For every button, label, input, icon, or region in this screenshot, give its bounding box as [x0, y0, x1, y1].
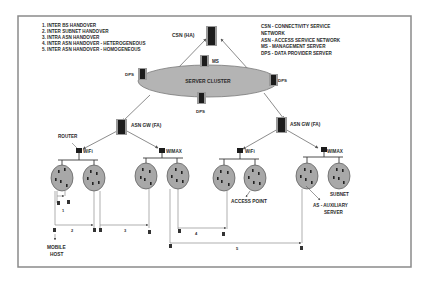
mobile-host-icon: [53, 228, 56, 232]
ms-label: MS: [212, 59, 219, 64]
legend-item-5: 5. INTER ASN HANDOVER - HOMOGENEOUS: [42, 47, 141, 52]
legend-item-2: 2. INTER SUBNET HANDOVER: [42, 29, 109, 34]
wimax-right-label: WIMAX: [327, 149, 344, 154]
mobile-host-label-2: HOST: [50, 252, 63, 257]
mobile-host-label-1: MOBILE: [47, 245, 66, 250]
subnet-cell: [135, 163, 157, 189]
dps-right-label: DPS: [278, 78, 287, 83]
csn-label: CSN (HA): [172, 32, 195, 38]
asn-gw-left: [116, 119, 127, 135]
asn-gw-right-label: ASN GW (FA): [290, 122, 321, 127]
ms-server: [200, 55, 209, 67]
dps-right-server: [269, 74, 278, 86]
mobile-host-icon: [99, 228, 102, 232]
mobile-host-icon: [169, 244, 172, 248]
router-label: ROUTER: [58, 134, 78, 139]
dps-left-server: [138, 68, 147, 80]
wifi-left-router: [76, 148, 82, 153]
wimax-left-label: WIMAX: [166, 149, 183, 154]
mobile-host-icon: [67, 200, 70, 204]
csn-server: [206, 26, 217, 46]
dps-bottom-server: [197, 92, 206, 104]
abbrev-csn-cont: NETWORK: [261, 31, 285, 36]
wifi-left-label: WiFi: [83, 149, 93, 154]
subnet-cell: [167, 163, 189, 189]
auxiliary-server-label-1: AS - AUXILIARY: [313, 203, 348, 208]
abbrev-csn: CSN - CONNECTIVITY SERVICE: [261, 24, 330, 29]
wimax-handover-diagram: 1. INTER BS HANDOVER 2. INTER SUBNET HAN…: [0, 0, 430, 281]
auxiliary-server-label-2: SERVER: [324, 210, 343, 215]
access-point-label: ACCESS POINT: [231, 199, 267, 204]
asn-gw-left-label: ASN GW (FA): [131, 123, 162, 128]
subnet-cell: [83, 165, 105, 191]
subnet-label: SUBNET: [330, 192, 349, 197]
legend-item-4: 4. INTER ASN HANDOVER - HETEROGENEOUS: [42, 41, 145, 46]
abbrev-dps: DPS - DATA PROVIDER SERVER: [261, 51, 332, 56]
subnet-cell: [328, 163, 350, 189]
mobile-host-icon: [300, 246, 303, 250]
subnet-cell: [296, 163, 318, 189]
server-cluster-label: SERVER CLUSTER: [185, 78, 231, 84]
subnet-cell: [244, 165, 266, 191]
wimax-left-router: [159, 148, 165, 153]
legend-item-3: 3. INTRA ASN HANDOVER: [42, 35, 100, 40]
mobile-host-icon: [93, 228, 96, 232]
mobile-host-icon: [222, 232, 225, 236]
wifi-right-router: [237, 148, 243, 153]
subnet-cell: [51, 165, 73, 191]
subnet-cell: [213, 165, 235, 191]
legend-item-1: 1. INTER BS HANDOVER: [42, 23, 97, 28]
wifi-right-label: WiFi: [245, 149, 255, 154]
mobile-host-icon: [178, 229, 181, 233]
asn-gw-right: [276, 117, 287, 133]
abbreviation-legend: CSN - CONNECTIVITY SERVICE NETWORK ASN -…: [261, 24, 341, 56]
mobile-host-icon: [57, 201, 60, 205]
dps-left-label: DPS: [125, 72, 134, 77]
dps-bottom-label: DPS: [196, 109, 205, 114]
diagram-frame: [18, 16, 411, 267]
mobile-host-icon: [148, 230, 151, 234]
abbrev-asn: ASN - ACCESS SERVICE NETWORK: [261, 38, 341, 43]
abbrev-ms: MS - MANAGEMENT SERVER: [261, 44, 326, 49]
